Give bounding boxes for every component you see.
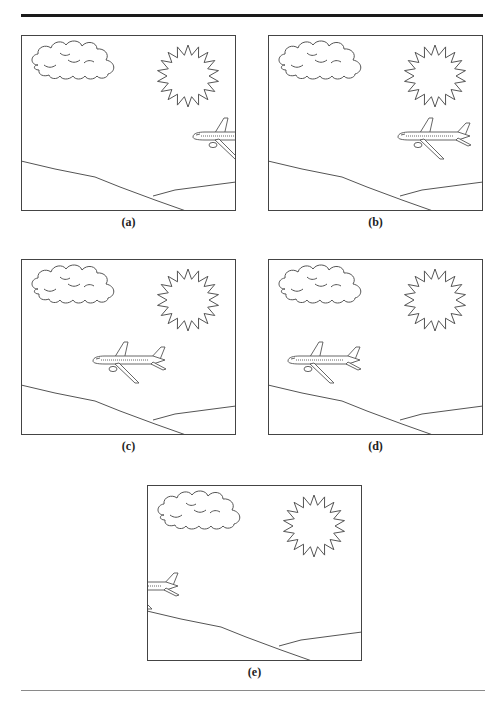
panel-label-e: (e): [147, 665, 362, 680]
scene-a: [21, 35, 236, 211]
scene-background: [21, 259, 236, 435]
panel-a: [21, 35, 236, 211]
panel-e: [147, 485, 362, 661]
panel-label-b: (b): [268, 215, 483, 230]
scene-background: [268, 35, 483, 211]
scene-background: [147, 485, 362, 661]
panel-label-d: (d): [268, 439, 483, 454]
scene-background: [268, 259, 483, 435]
scene-d: [268, 259, 483, 435]
scene-background: [21, 35, 236, 211]
panel-label-a: (a): [21, 215, 236, 230]
bottom-rule: [21, 690, 485, 691]
scene-b: [268, 35, 483, 211]
top-rule: [21, 14, 483, 17]
panel-label-c: (c): [21, 439, 236, 454]
panel-c: [21, 259, 236, 435]
panel-d: [268, 259, 483, 435]
scene-c: [21, 259, 236, 435]
panel-b: [268, 35, 483, 211]
scene-e: [147, 485, 362, 661]
